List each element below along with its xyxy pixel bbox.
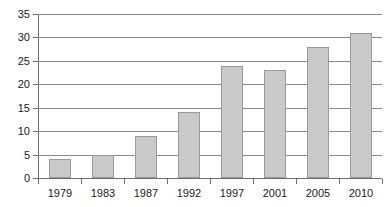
bar-2001 [264, 70, 286, 178]
gridline-30 [38, 37, 382, 38]
x-axis-label-2001: 2001 [253, 187, 297, 199]
x-axis-label-1979: 1979 [38, 187, 82, 199]
x-axis-tick-mark [167, 179, 168, 184]
bar-1987 [135, 136, 157, 178]
x-axis-label-2010: 2010 [339, 187, 383, 199]
x-axis-label-1987: 1987 [124, 187, 168, 199]
bar-1983 [92, 155, 114, 178]
x-axis-tick-mark [124, 179, 125, 184]
x-axis-tick-mark [38, 179, 39, 184]
x-axis-label-1992: 1992 [167, 187, 211, 199]
y-axis-tick-label: 0 [8, 173, 30, 184]
x-axis-tick-mark [253, 179, 254, 184]
gridline-15 [38, 108, 382, 109]
y-axis-tick-label: 20 [8, 79, 30, 90]
bar-1992 [178, 112, 200, 178]
y-axis-tick-label: 15 [8, 103, 30, 114]
bar-2010 [350, 33, 372, 178]
y-axis-tick-label: 25 [8, 56, 30, 67]
x-axis-label-2005: 2005 [296, 187, 340, 199]
bar-1979 [49, 159, 71, 178]
gridline-20 [38, 84, 382, 85]
y-axis-tick-label: 30 [8, 32, 30, 43]
y-axis-tick-label: 35 [8, 9, 30, 20]
y-axis-tick-label: 5 [8, 150, 30, 161]
x-axis-tick-mark [210, 179, 211, 184]
gridline-10 [38, 131, 382, 132]
bar-2005 [307, 47, 329, 178]
y-axis-tick-label: 10 [8, 126, 30, 137]
plot-area [38, 14, 382, 178]
gridline-25 [38, 61, 382, 62]
gridline-35 [38, 14, 382, 15]
gridline-5 [38, 155, 382, 156]
bar-1997 [221, 66, 243, 178]
x-axis-tick-mark [81, 179, 82, 184]
x-axis-tick-mark [296, 179, 297, 184]
x-axis-label-1983: 1983 [81, 187, 125, 199]
x-axis-tick-mark [382, 179, 383, 184]
x-axis-label-1997: 1997 [210, 187, 254, 199]
x-axis-tick-mark [339, 179, 340, 184]
bar-chart: 35 30 25 20 15 10 5 0 [0, 0, 391, 207]
